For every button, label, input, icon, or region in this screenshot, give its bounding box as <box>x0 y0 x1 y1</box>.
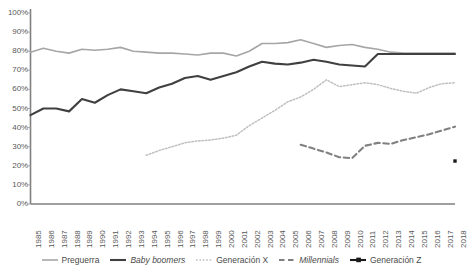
series-line <box>301 127 455 159</box>
x-axis-tick-label: 2008 <box>330 230 339 248</box>
x-axis-tick-label: 2010 <box>356 230 365 248</box>
x-axis-tick-label: 1994 <box>150 230 159 248</box>
x-axis-tick-label: 2014 <box>407 230 416 248</box>
legend-label: Millennials <box>299 255 339 265</box>
legend-item[interactable]: Generación Z <box>350 255 422 265</box>
x-axis-tick-label: 1995 <box>163 230 172 248</box>
x-axis-tick-label: 2003 <box>266 230 275 248</box>
x-axis-tick-label: 2016 <box>433 230 442 248</box>
x-axis-tick-label: 2002 <box>253 230 262 248</box>
legend-swatch-icon <box>279 255 295 265</box>
legend-item[interactable]: Preguerra <box>42 255 100 265</box>
x-axis-tick-label: 1985 <box>34 230 43 248</box>
series-line <box>31 54 456 115</box>
x-axis-tick-label: 2018 <box>459 230 468 248</box>
x-axis-tick-label: 1993 <box>137 230 146 248</box>
legend-label: Generación Z <box>370 255 422 265</box>
axis-lines <box>28 9 456 204</box>
x-axis-tick-label: 2001 <box>240 230 249 248</box>
legend-swatch-icon <box>110 255 126 265</box>
series-line <box>453 159 456 162</box>
x-axis-tick-label: 1988 <box>73 230 82 248</box>
x-axis-tick-label: 2013 <box>394 230 403 248</box>
x-axis-tick-label: 1999 <box>214 230 223 248</box>
x-axis-tick-label: 2004 <box>278 230 287 248</box>
legend-label: Baby boomers <box>130 255 185 265</box>
x-axis-tick-label: 2005 <box>291 230 300 248</box>
chart-legend: PreguerraBaby boomersGeneración XMillenn… <box>0 250 463 270</box>
x-axis-tick-label: 1996 <box>176 230 185 248</box>
x-axis-tick-label: 1992 <box>124 230 133 248</box>
legend-item[interactable]: Baby boomers <box>110 255 185 265</box>
x-axis-tick-label: 1987 <box>60 230 69 248</box>
legend-swatch-icon <box>196 255 212 265</box>
x-axis-tick-label: 1991 <box>111 230 120 248</box>
x-axis-tick-label: 1998 <box>201 230 210 248</box>
x-axis-tick-label: 1986 <box>47 230 56 248</box>
x-axis-tick-label: 2011 <box>368 231 377 248</box>
x-axis-tick-label: 1990 <box>98 230 107 248</box>
plot-area <box>0 0 463 210</box>
x-axis-tick-label: 2017 <box>446 230 455 248</box>
x-axis-tick-label: 2007 <box>317 230 326 248</box>
legend-label: Preguerra <box>62 255 100 265</box>
x-axis-tick-label: 2006 <box>304 230 313 248</box>
x-axis-tick-label: 2015 <box>420 230 429 248</box>
x-axis-tick-label: 2012 <box>381 230 390 248</box>
x-axis-tick-label: 1997 <box>188 230 197 248</box>
legend-swatch-icon <box>42 255 58 265</box>
legend-item[interactable]: Millennials <box>279 255 339 265</box>
x-axis: 1985198619871988198919901991199219931994… <box>0 206 463 252</box>
x-axis-tick-label: 2009 <box>343 230 352 248</box>
legend-swatch-icon <box>350 255 366 265</box>
legend-label: Generación X <box>216 255 268 265</box>
legend-item[interactable]: Generación X <box>196 255 268 265</box>
x-axis-tick-label: 1989 <box>85 230 94 248</box>
x-axis-tick-label: 2000 <box>227 230 236 248</box>
